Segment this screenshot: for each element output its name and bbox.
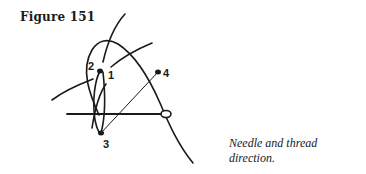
thread-strand-left [52,79,93,100]
figure-caption: Needle and thread direction. [229,136,366,166]
label-3: 3 [103,138,109,150]
point-2-dot [97,69,103,74]
inner-loop [94,71,105,133]
label-4: 4 [163,67,170,79]
thread-strand-top [103,14,125,62]
needle-eye-icon [161,111,171,118]
diagonal-stitch [101,72,158,133]
point-3-dot [98,131,104,136]
label-2: 2 [88,60,94,72]
label-1: 1 [108,69,114,81]
point-4-dot [155,70,161,75]
